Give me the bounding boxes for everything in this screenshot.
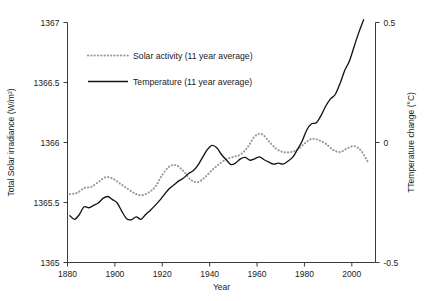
y-axis-right-ticks: -0.500.5 — [376, 18, 399, 268]
legend-label-solar-activity: Solar activity (11 year average) — [133, 51, 253, 61]
y-tick-label-right: 0 — [384, 138, 389, 148]
chart-legend: Solar activity (11 year average) Tempera… — [88, 51, 253, 87]
y-tick-label-right: 0.5 — [384, 18, 396, 28]
solar-vs-temperature-chart: 13651365.513661366.51367 -0.500.5 188019… — [0, 0, 427, 301]
x-axis-ticks: 1880190019201940196019802000 — [58, 263, 361, 279]
y-axis-left-ticks: 13651365.513661366.51367 — [34, 18, 68, 268]
x-tick-label: 2000 — [342, 269, 361, 279]
y-tick-label-left: 1365 — [41, 258, 60, 268]
y-tick-label-left: 1365.5 — [34, 198, 60, 208]
x-tick-label: 1920 — [153, 269, 172, 279]
y-axis-left-title: Total Solar irradiance (W/m²) — [6, 88, 16, 196]
legend-label-temperature: Temperature (11 year average) — [133, 77, 252, 87]
y-tick-label-left: 1366.5 — [34, 78, 60, 88]
series-line-solar-activity — [70, 134, 369, 195]
x-tick-label: 1900 — [105, 269, 124, 279]
y-tick-label-left: 1367 — [41, 18, 60, 28]
y-tick-label-right: -0.5 — [384, 258, 399, 268]
x-tick-label: 1880 — [58, 269, 77, 279]
chart-container: 13651365.513661366.51367 -0.500.5 188019… — [0, 0, 427, 301]
x-tick-label: 1960 — [248, 269, 267, 279]
x-axis-title: Year — [213, 282, 230, 292]
x-tick-label: 1980 — [295, 269, 314, 279]
y-axis-right-title: TTemperature change (°C) — [406, 92, 416, 193]
x-tick-label: 1940 — [200, 269, 219, 279]
y-tick-label-left: 1366 — [41, 138, 60, 148]
